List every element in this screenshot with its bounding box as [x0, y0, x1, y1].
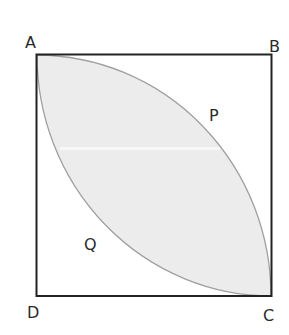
label-b: B	[269, 37, 280, 56]
label-q: Q	[84, 235, 97, 254]
diagram-canvas: A B C D P Q	[0, 0, 289, 335]
shaded-lens-region	[37, 55, 271, 296]
label-c: C	[263, 306, 274, 325]
label-p: P	[209, 106, 219, 125]
scan-highlight	[60, 147, 220, 150]
label-a: A	[25, 33, 36, 52]
label-d: D	[27, 303, 39, 322]
